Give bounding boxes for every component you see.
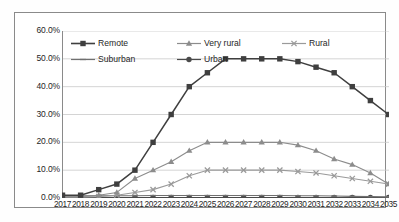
x-axis-tick-label: 2018	[72, 199, 89, 209]
y-axis-tick-labels: 60.0% 50.0% 40.0% 30.0% 20.0% 10.0% 0.0%	[15, 13, 60, 209]
y-axis-tick-label: 40.0%	[36, 81, 60, 91]
x-axis-tick-label: 2026	[217, 199, 234, 209]
legend-item-rural: Rural	[281, 38, 330, 49]
x-axis-tick-label: 2032	[326, 199, 343, 209]
legend-marker-cross-icon	[281, 38, 307, 49]
x-axis-tick-label: 2027	[235, 199, 252, 209]
legend-label: Remote	[98, 38, 128, 49]
legend-label: Suburban	[98, 54, 135, 65]
legend-marker-circle-icon	[176, 54, 202, 65]
legend-marker-dash-icon	[70, 54, 96, 65]
x-axis-tick-label: 2033	[344, 199, 361, 209]
legend-marker-triangle-icon	[176, 38, 202, 49]
x-axis-tick-label: 2028	[253, 199, 270, 209]
x-axis-tick-labels: 2017201820192020202120222023202420252026…	[62, 199, 389, 215]
x-axis-tick-label: 2020	[108, 199, 125, 209]
x-axis-tick-label: 2017	[54, 199, 71, 209]
chart-plot-frame: 60.0% 50.0% 40.0% 30.0% 20.0% 10.0% 0.0%…	[14, 12, 386, 208]
y-axis-tick-label: 60.0%	[36, 25, 60, 35]
legend-label: Rural	[309, 38, 330, 49]
x-axis-tick-label: 2030	[289, 199, 306, 209]
x-axis-tick-label: 2031	[308, 199, 325, 209]
legend-item-very-rural: Very rural	[176, 38, 281, 49]
legend-item-remote: Remote	[70, 38, 176, 49]
chart-root: 60.0% 50.0% 40.0% 30.0% 20.0% 10.0% 0.0%…	[0, 0, 399, 222]
x-axis-tick-label: 2022	[145, 199, 162, 209]
y-axis-tick-label: 20.0%	[36, 136, 60, 146]
legend-item-suburban: Suburban	[70, 54, 176, 65]
legend-item-urban: Urban	[176, 54, 227, 65]
x-axis-tick-label: 2019	[90, 199, 107, 209]
x-axis-tick-label: 2024	[181, 199, 198, 209]
x-axis-tick-label: 2023	[163, 199, 180, 209]
x-axis-tick-label: 2021	[126, 199, 143, 209]
x-axis-tick-label: 2025	[199, 199, 216, 209]
series-very-rural	[62, 139, 389, 198]
x-axis-tick-label: 2029	[271, 199, 288, 209]
legend-row-1: Remote Very rural Rural	[70, 35, 360, 51]
legend-marker-square-icon	[70, 38, 96, 49]
x-axis-tick-label: 2034	[362, 199, 379, 209]
legend-label: Very rural	[204, 38, 241, 49]
legend-label: Urban	[204, 54, 227, 65]
chart-legend: Remote Very rural Rural Suburban	[70, 35, 360, 67]
y-axis-tick-label: 10.0%	[36, 164, 60, 174]
legend-row-2: Suburban Urban	[70, 51, 360, 67]
y-axis-tick-label: 30.0%	[36, 109, 60, 119]
y-axis-tick-label: 50.0%	[36, 53, 60, 63]
x-axis-tick-label: 2035	[380, 199, 397, 209]
